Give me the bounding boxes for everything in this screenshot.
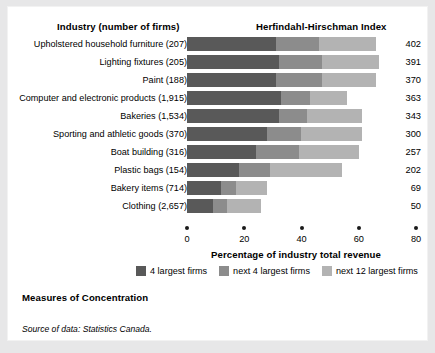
- bar-segment-next-12: [319, 37, 376, 51]
- chart-panel: Industry (number of firms) Herfindahl-Hi…: [8, 7, 427, 340]
- stacked-bar: [187, 37, 376, 51]
- legend-swatch-next-12: [322, 266, 332, 276]
- bar-segment-4-largest: [187, 73, 276, 87]
- bar-segment-next-12: [310, 91, 347, 105]
- legend-swatch-next-4: [219, 266, 229, 276]
- bar-segment-next-4: [281, 91, 310, 105]
- bar-segment-4-largest: [187, 199, 213, 213]
- bar-segment-next-12: [270, 163, 342, 177]
- table-row: Bakeries (1,534)343: [8, 108, 427, 126]
- bar-segment-next-12: [236, 181, 267, 195]
- x-axis-tick-dot: [300, 226, 304, 230]
- hhi-value: 391: [397, 57, 421, 67]
- table-row: Lighting fixtures (205)391: [8, 54, 427, 72]
- x-axis-title: Percentage of industry total revenue: [211, 249, 381, 260]
- x-axis-tick-dot: [185, 226, 189, 230]
- legend-label: 4 largest firms: [150, 266, 207, 276]
- table-row: Boat building (316)257: [8, 144, 427, 162]
- legend-swatch-4-largest: [136, 266, 146, 276]
- bar-segment-next-12: [322, 73, 376, 87]
- hhi-value: 402: [397, 39, 421, 49]
- hhi-value: 69: [397, 183, 421, 193]
- table-row: Upholstered household furniture (207)402: [8, 36, 427, 54]
- bar-segment-next-4: [279, 109, 308, 123]
- bar-segment-next-4: [239, 163, 270, 177]
- table-row: Clothing (2,657)50: [8, 198, 427, 216]
- source-note: Source of data: Statistics Canada.: [22, 324, 152, 334]
- bar-segment-next-4: [267, 127, 301, 141]
- x-axis-tick-dot: [357, 226, 361, 230]
- stacked-bar: [187, 199, 261, 213]
- x-axis-tick-dot: [414, 226, 418, 230]
- bar-segment-4-largest: [187, 181, 221, 195]
- bar-segment-4-largest: [187, 145, 256, 159]
- legend-item: 4 largest firms: [136, 266, 207, 276]
- bar-segment-next-4: [279, 55, 322, 69]
- stacked-bar: [187, 127, 362, 141]
- table-row: Plastic bags (154)202: [8, 162, 427, 180]
- bar-rows: Upholstered household furniture (207)402…: [8, 36, 427, 216]
- column-header-hhi: Herfindahl-Hirschman Index: [256, 21, 387, 32]
- bar-segment-next-12: [307, 109, 361, 123]
- chart-title: Measures of Concentration: [22, 292, 148, 303]
- bar-segment-4-largest: [187, 163, 239, 177]
- stacked-bar: [187, 163, 342, 177]
- bar-segment-next-12: [322, 55, 379, 69]
- legend-label: next 12 largest firms: [336, 266, 418, 276]
- bar-segment-4-largest: [187, 37, 276, 51]
- bar-segment-4-largest: [187, 127, 267, 141]
- row-label: Upholstered household furniture (207): [34, 39, 187, 49]
- stacked-bar: [187, 91, 347, 105]
- bar-segment-next-4: [256, 145, 299, 159]
- table-row: Paint (188)370: [8, 72, 427, 90]
- row-label: Bakery items (714): [111, 183, 187, 193]
- table-row: Sporting and athletic goods (370)300: [8, 126, 427, 144]
- row-label: Clothing (2,657): [122, 201, 187, 211]
- bar-segment-next-12: [301, 127, 361, 141]
- stacked-bar: [187, 145, 359, 159]
- bar-segment-next-4: [221, 181, 235, 195]
- row-label: Plastic bags (154): [114, 165, 187, 175]
- legend-item: next 4 largest firms: [219, 266, 310, 276]
- hhi-value: 257: [397, 147, 421, 157]
- row-label: Computer and electronic products (1,915): [19, 93, 187, 103]
- hhi-value: 343: [397, 111, 421, 121]
- x-axis-tick-label: 60: [344, 234, 374, 244]
- row-label: Sporting and athletic goods (370): [53, 129, 187, 139]
- chart-legend: 4 largest firmsnext 4 largest firmsnext …: [136, 266, 418, 276]
- row-label: Paint (188): [143, 75, 187, 85]
- bar-segment-next-4: [276, 73, 322, 87]
- hhi-value: 50: [397, 201, 421, 211]
- hhi-value: 202: [397, 165, 421, 175]
- stacked-bar: [187, 55, 379, 69]
- bar-segment-4-largest: [187, 109, 279, 123]
- chart-page: Industry (number of firms) Herfindahl-Hi…: [0, 0, 435, 353]
- bar-segment-next-4: [276, 37, 319, 51]
- x-axis-tick-label: 40: [287, 234, 317, 244]
- legend-item: next 12 largest firms: [322, 266, 418, 276]
- row-label: Boat building (316): [111, 147, 187, 157]
- table-row: Bakery items (714)69: [8, 180, 427, 198]
- hhi-value: 300: [397, 129, 421, 139]
- column-header-industry: Industry (number of firms): [57, 21, 180, 32]
- x-axis-tick-label: 80: [401, 234, 431, 244]
- x-axis-tick-label: 20: [229, 234, 259, 244]
- hhi-value: 363: [397, 93, 421, 103]
- stacked-bar: [187, 181, 267, 195]
- bar-segment-next-12: [227, 199, 261, 213]
- row-label: Bakeries (1,534): [120, 111, 187, 121]
- stacked-bar: [187, 109, 362, 123]
- table-row: Computer and electronic products (1,915)…: [8, 90, 427, 108]
- legend-label: next 4 largest firms: [233, 266, 310, 276]
- x-axis-tick-label: 0: [172, 234, 202, 244]
- stacked-bar: [187, 73, 376, 87]
- x-axis-tick-dot: [242, 226, 246, 230]
- bar-segment-4-largest: [187, 55, 279, 69]
- bar-segment-next-4: [213, 199, 227, 213]
- hhi-value: 370: [397, 75, 421, 85]
- bar-segment-next-12: [299, 145, 359, 159]
- bar-segment-4-largest: [187, 91, 281, 105]
- row-label: Lighting fixtures (205): [100, 57, 187, 67]
